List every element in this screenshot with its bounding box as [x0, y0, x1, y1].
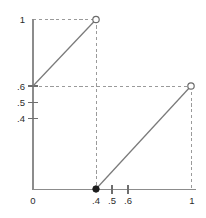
y-label-04: .4 — [17, 113, 25, 124]
open-point-right — [188, 83, 194, 89]
x-label-05: .5 — [108, 195, 116, 206]
series-segment-1 — [33, 20, 96, 87]
data-series — [33, 20, 191, 190]
y-label-1: 1 — [20, 14, 25, 25]
y-label-05: .5 — [17, 97, 25, 108]
guide-lines — [33, 20, 191, 190]
data-markers — [93, 16, 194, 192]
closed-point-origin-jump — [93, 186, 99, 192]
series-segment-2 — [96, 86, 191, 189]
tick-marks — [28, 86, 128, 194]
y-axis-labels: 1 .6 .5 .4 — [17, 14, 25, 124]
x-label-04: .4 — [92, 195, 100, 206]
chart-container: 1 .6 .5 .4 0 .4 .5 .6 1 — [0, 0, 206, 218]
x-label-06: .6 — [124, 195, 132, 206]
open-point-upper — [93, 16, 99, 22]
piecewise-line-chart: 1 .6 .5 .4 0 .4 .5 .6 1 — [0, 0, 206, 218]
y-label-06: .6 — [17, 81, 25, 92]
x-axis-labels: 0 .4 .5 .6 1 — [30, 195, 194, 206]
x-label-1: 1 — [189, 195, 194, 206]
axes — [33, 19, 196, 190]
x-label-0: 0 — [30, 195, 35, 206]
